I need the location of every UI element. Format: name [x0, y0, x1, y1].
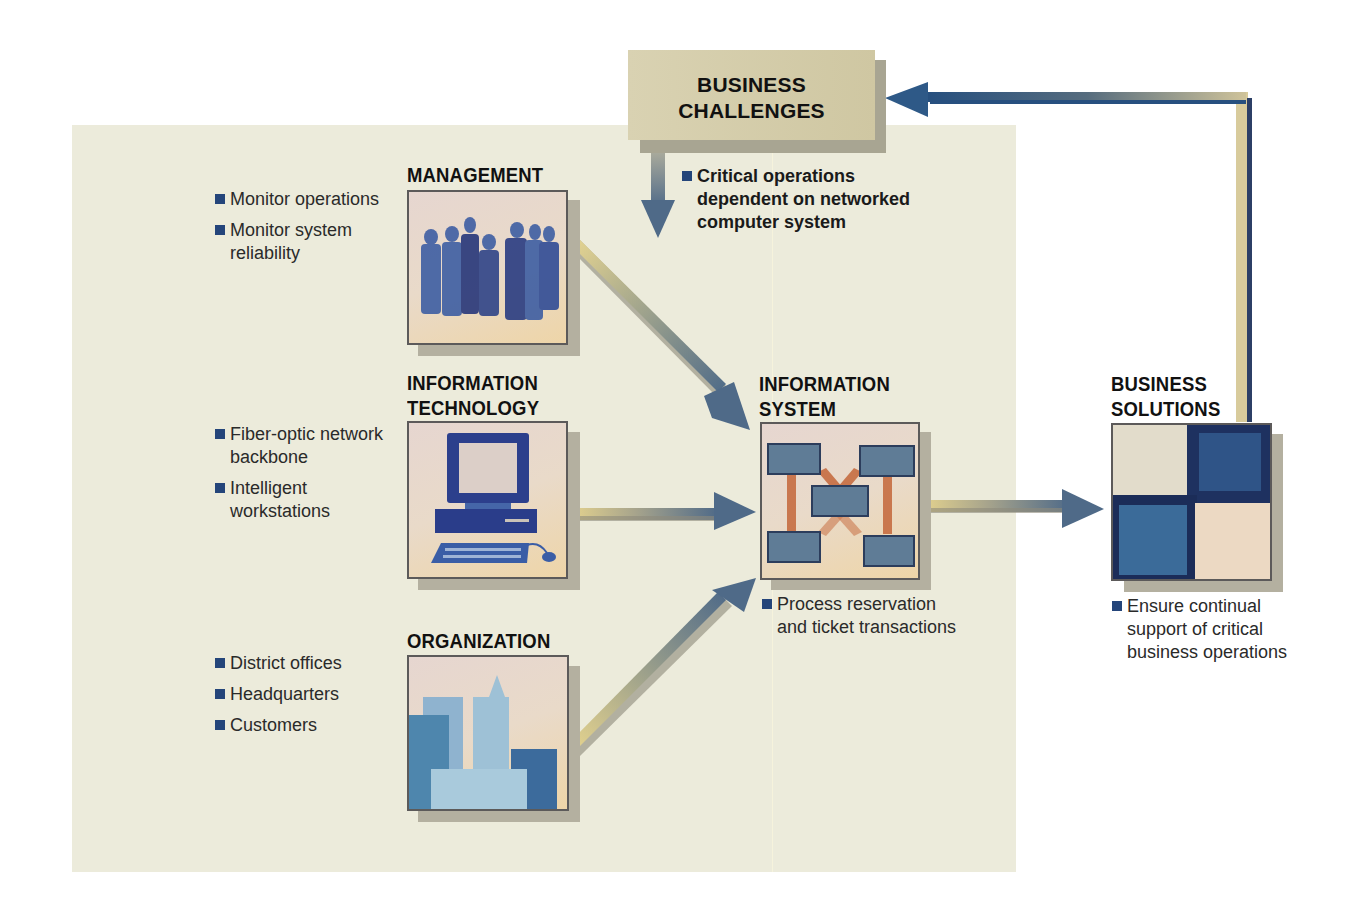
bullet-square-icon — [215, 225, 225, 235]
business-solutions-bullets: Ensure continual support of critical bus… — [1112, 595, 1287, 672]
business-challenges-box: BUSINESS CHALLENGES — [628, 50, 875, 140]
bullet-item: Ensure continual support of critical bus… — [1112, 595, 1287, 664]
bullet-square-icon — [762, 599, 772, 609]
information-system-image — [760, 422, 920, 580]
it-to-is-arrow — [568, 492, 756, 530]
organization-image — [407, 655, 569, 811]
organization-bullets: District offices Headquarters Customers — [215, 652, 342, 745]
business-solutions-image — [1111, 423, 1272, 581]
management-title: MANAGEMENT — [407, 162, 543, 187]
bullet-item: Intelligent workstations — [215, 477, 383, 523]
bullet-square-icon — [215, 689, 225, 699]
information-system-title: INFORMATION SYSTEM — [759, 371, 890, 421]
information-technology-title: INFORMATION TECHNOLOGY — [407, 370, 539, 420]
bullet-square-icon — [215, 429, 225, 439]
bullet-item: Headquarters — [215, 683, 342, 706]
management-to-is-arrow — [568, 236, 750, 430]
bullet-item: Monitor operations — [215, 188, 379, 211]
bullet-square-icon — [682, 171, 692, 181]
is-to-solutions-arrow — [920, 489, 1104, 528]
checkered-squares-icon — [1113, 425, 1270, 579]
bullet-square-icon — [215, 483, 225, 493]
organization-title: ORGANIZATION — [407, 628, 550, 653]
bullet-square-icon — [215, 658, 225, 668]
bullet-item: District offices — [215, 652, 342, 675]
bullet-square-icon — [1112, 601, 1122, 611]
bullet-item: Critical operations dependent on network… — [682, 165, 910, 234]
desktop-computer-icon — [409, 423, 566, 577]
bullet-square-icon — [215, 194, 225, 204]
bullet-square-icon — [215, 720, 225, 730]
bullet-item: Fiber-optic network backbone — [215, 423, 383, 469]
information-technology-bullets: Fiber-optic network backbone Intelligent… — [215, 423, 383, 531]
organization-to-is-arrow — [570, 578, 756, 756]
city-buildings-icon — [409, 657, 567, 809]
information-technology-image — [407, 421, 568, 579]
business-challenges-title: BUSINESS CHALLENGES — [678, 72, 825, 124]
bullet-item: Monitor system reliability — [215, 219, 379, 265]
information-system-bullets: Process reservation and ticket transacti… — [762, 593, 956, 647]
challenges-down-arrow — [641, 140, 675, 238]
business-solutions-title: BUSINESS SOLUTIONS — [1111, 371, 1220, 421]
management-bullets: Monitor operations Monitor system reliab… — [215, 188, 379, 273]
network-nodes-icon — [762, 424, 918, 578]
management-image — [407, 190, 568, 345]
bullet-item: Customers — [215, 714, 342, 737]
bullet-item: Process reservation and ticket transacti… — [762, 593, 956, 639]
people-silhouettes-icon — [409, 192, 566, 343]
business-challenges-bullets: Critical operations dependent on network… — [682, 165, 910, 242]
